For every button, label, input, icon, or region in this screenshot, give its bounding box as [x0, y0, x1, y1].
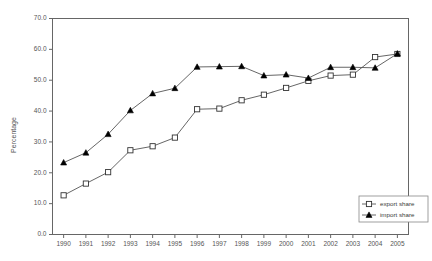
- x-tick-label: 1994: [145, 240, 160, 247]
- y-tick-label: 50.0: [34, 76, 47, 83]
- x-tick-label: 1990: [56, 240, 71, 247]
- data-point-marker-open-square: [83, 181, 88, 186]
- x-tick-label: 2002: [323, 240, 338, 247]
- data-point-marker-open-square: [195, 107, 200, 112]
- chart-legend: export shareimport share: [359, 196, 428, 222]
- data-point-marker-open-square: [106, 170, 111, 175]
- data-point-marker-open-square: [350, 72, 355, 77]
- y-tick-label: 70.0: [34, 14, 47, 21]
- data-point-marker-open-square: [61, 193, 66, 198]
- legend-label: import share: [380, 211, 415, 218]
- x-tick-label: 2003: [346, 240, 361, 247]
- x-tick-label: 1995: [168, 240, 183, 247]
- x-tick-label: 1996: [190, 240, 205, 247]
- y-tick-label: 0.0: [37, 230, 46, 237]
- y-tick-label: 10.0: [34, 199, 47, 206]
- y-tick-label: 20.0: [34, 169, 47, 176]
- x-tick-label: 1997: [212, 240, 227, 247]
- data-point-marker-open-square: [373, 54, 378, 59]
- x-tick-label: 1992: [101, 240, 116, 247]
- x-tick-label: 2001: [301, 240, 316, 247]
- x-tick-label: 2005: [390, 240, 405, 247]
- line-chart: Percentage 0.010.020.030.040.050.060.070…: [0, 0, 432, 261]
- y-axis-title: Percentage: [10, 117, 18, 153]
- y-tick-label: 60.0: [34, 45, 47, 52]
- x-tick-label: 1999: [257, 240, 272, 247]
- chart-container: Percentage 0.010.020.030.040.050.060.070…: [0, 0, 432, 261]
- data-point-marker-open-square: [366, 201, 371, 206]
- x-tick-label: 2000: [279, 240, 294, 247]
- x-tick-label: 1998: [234, 240, 249, 247]
- data-point-marker-open-square: [150, 144, 155, 149]
- x-tick-label: 1991: [79, 240, 94, 247]
- data-point-marker-open-square: [328, 73, 333, 78]
- data-point-marker-open-square: [239, 98, 244, 103]
- data-point-marker-open-square: [284, 85, 289, 90]
- y-tick-label: 30.0: [34, 138, 47, 145]
- x-tick-label: 1993: [123, 240, 138, 247]
- data-point-marker-open-square: [128, 148, 133, 153]
- data-point-marker-open-square: [217, 106, 222, 111]
- y-tick-label: 40.0: [34, 107, 47, 114]
- legend-label: export share: [380, 200, 415, 207]
- data-point-marker-open-square: [261, 92, 266, 97]
- data-point-marker-open-square: [172, 135, 177, 140]
- x-tick-label: 2004: [368, 240, 383, 247]
